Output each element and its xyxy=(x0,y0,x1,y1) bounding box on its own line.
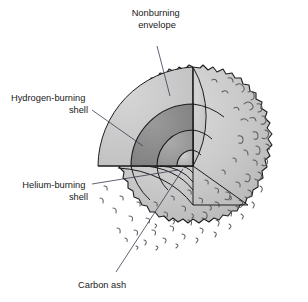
diagram-canvas: Nonburning envelope Hydrogen-burning she… xyxy=(0,0,308,302)
label-helium-burning-shell: Helium-burning shell xyxy=(22,180,88,202)
star-cutaway-diagram: Nonburning envelope Hydrogen-burning she… xyxy=(0,0,308,302)
label-hydrogen-burning-shell: Hydrogen-burning shell xyxy=(11,93,88,115)
label-nonburning-envelope: Nonburning envelope xyxy=(132,8,183,30)
label-carbon-ash: Carbon ash xyxy=(78,280,126,290)
